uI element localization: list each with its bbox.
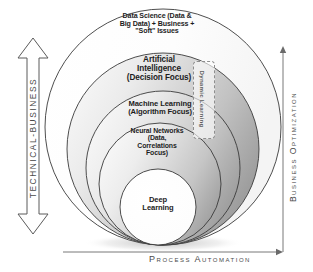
label-deep-learning-line-2: Learning (126, 204, 190, 212)
label-data-science: Data Science (Data & Big Data) + Busines… (96, 13, 218, 36)
axis-label-process-automation: Process Automation (120, 252, 280, 265)
diagram-canvas: Data Science (Data & Big Data) + Busines… (0, 0, 313, 272)
label-data-science-line-3: "Soft" Issues (96, 28, 218, 36)
label-neural-networks: Neural Networks (Data, Correlations Focu… (114, 127, 200, 157)
label-artificial-intelligence-line-3: (Decision Focus) (112, 74, 206, 83)
label-neural-networks-line-3: Correlations (114, 142, 200, 149)
label-neural-networks-line-2: (Data, (114, 134, 200, 141)
axis-label-business-optimization: Business Optimization (286, 47, 300, 247)
label-neural-networks-line-1: Neural Networks (114, 127, 200, 134)
axis-label-technical-business: TECHNICAL-BUSINESS (26, 43, 40, 233)
label-deep-learning: Deep Learning (126, 196, 190, 212)
label-neural-networks-line-4: Focus) (114, 149, 200, 156)
label-artificial-intelligence: Artificial Intelligence (Decision Focus) (112, 56, 206, 83)
dynamic-learning-callout-label: Dynamic Learning (193, 61, 213, 137)
